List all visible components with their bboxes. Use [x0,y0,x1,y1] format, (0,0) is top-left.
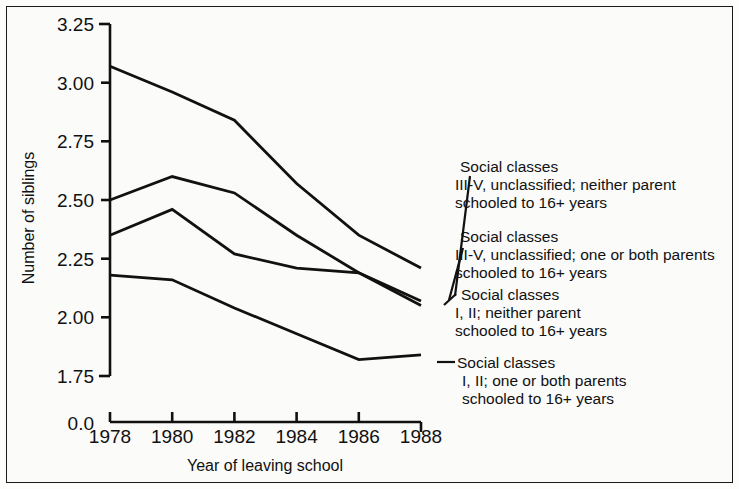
legend-entry-line: I, II; one or both parents [462,372,627,389]
x-axis-ticks [172,412,359,422]
x-tick-label: 1986 [338,426,380,447]
legend-entry-line: III-V, unclassified; one or both parents [455,246,715,263]
x-axis-tick-labels: 1978 1980 1982 1984 1986 1988 [89,426,442,447]
x-tick-label: 1980 [151,426,193,447]
legend-entry-line: Social classes [460,158,558,175]
y-axis-title: Number of siblings [20,152,37,285]
y-axis-ticks [101,83,110,318]
y-axis [99,24,110,376]
y-axis-tick-labels: 3.25 3.00 2.75 2.50 2.25 2.00 1.75 [57,14,94,387]
legend-entry-line: schooled to 16+ years [455,194,607,211]
x-tick-label: 1988 [400,426,442,447]
legend-entry-line: Social classes [460,228,558,245]
y-tick-label: 1.75 [57,366,94,387]
legend-entry-line: schooled to 16+ years [455,322,607,339]
x-tick-label: 1978 [89,426,131,447]
y-tick-label: 3.25 [57,14,94,35]
legend-entry-line: schooled to 16+ years [455,264,607,281]
legend: Social classes III-V, unclassified; neit… [455,158,715,407]
y-tick-label: 2.75 [57,131,94,152]
legend-entry-4: Social classes I, II; one or both parent… [457,354,627,407]
legend-entry-line: schooled to 16+ years [462,390,614,407]
x-tick-label: 1984 [275,426,318,447]
line-chart: 3.25 3.00 2.75 2.50 2.25 2.00 1.75 0.0 1… [0,0,739,489]
legend-entry-3: Social classes I, II; neither parent sch… [455,286,607,339]
series-line-3 [110,209,421,305]
figure-container: 3.25 3.00 2.75 2.50 2.25 2.00 1.75 0.0 1… [0,0,739,489]
legend-entry-2: Social classes III-V, unclassified; one … [455,228,715,281]
y-tick-label: 2.25 [57,249,94,270]
legend-entry-line: Social classes [457,354,555,371]
x-axis-title: Year of leaving school [187,457,343,474]
data-series-group [110,66,421,359]
series-line-1 [110,66,421,268]
legend-entry-line: III-V, unclassified; neither parent [455,176,677,193]
y-tick-label: 2.50 [57,190,94,211]
legend-entry-line: I, II; neither parent [455,304,581,321]
y-tick-label: 2.00 [57,307,94,328]
legend-entry-line: Social classes [461,286,559,303]
series-line-4 [110,275,421,359]
x-tick-label: 1982 [213,426,255,447]
legend-entry-1: Social classes III-V, unclassified; neit… [455,158,677,211]
y-tick-label: 3.00 [57,73,94,94]
